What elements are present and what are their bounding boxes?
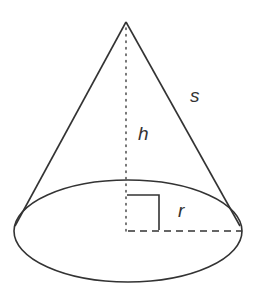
slant-label: s	[190, 86, 200, 105]
radius-label: r	[178, 201, 184, 220]
right-angle-marker	[127, 195, 159, 230]
cone-diagram	[0, 0, 257, 299]
cone-left-edge	[15, 22, 126, 226]
height-label: h	[138, 124, 149, 143]
